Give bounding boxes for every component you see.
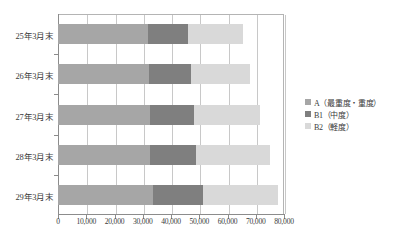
legend-label: B1（中度） xyxy=(314,109,354,120)
x-tick-label: 60,000 xyxy=(218,217,238,226)
bar-segment-a xyxy=(58,24,148,44)
legend-swatch-icon xyxy=(305,111,311,117)
y-tick xyxy=(54,135,58,136)
bar-chart: 25年3月末26年3月末27年3月末28年3月末29年3月末 010,00020… xyxy=(0,0,401,244)
y-tick xyxy=(54,94,58,95)
bar-segment-b2 xyxy=(191,64,250,84)
y-tick xyxy=(54,175,58,176)
bar-segment-b2 xyxy=(196,145,269,165)
chart-legend: A（最重度・重度）B1（中度）B2（軽度） xyxy=(305,96,397,132)
x-tick-label: 0 xyxy=(56,217,60,226)
y-axis-category-label: 28年3月末 xyxy=(0,150,54,162)
bar-segment-b2 xyxy=(188,24,243,44)
y-axis-category-label: 26年3月末 xyxy=(0,69,54,81)
legend-item[interactable]: B2（軽度） xyxy=(305,120,397,132)
legend-swatch-icon xyxy=(305,99,311,105)
x-tick-label: 20,000 xyxy=(105,217,125,226)
bar-segment-b1 xyxy=(150,105,194,125)
bar-segment-b2 xyxy=(203,185,278,205)
y-axis-category-label: 25年3月末 xyxy=(0,29,54,41)
bar-segment-b1 xyxy=(148,24,188,44)
gridline xyxy=(285,15,286,214)
y-axis-category-label: 27年3月末 xyxy=(0,110,54,122)
bar-segment-b1 xyxy=(149,64,191,84)
legend-label: A（最重度・重度） xyxy=(314,97,381,108)
legend-item[interactable]: B1（中度） xyxy=(305,108,397,120)
legend-swatch-icon xyxy=(305,123,311,129)
bar-segment-a xyxy=(58,105,150,125)
legend-label: B2（軽度） xyxy=(314,121,354,132)
x-tick-label: 80,000 xyxy=(274,217,294,226)
y-axis-category-label: 29年3月末 xyxy=(0,190,54,202)
bar-segment-b2 xyxy=(194,105,260,125)
x-tick-label: 40,000 xyxy=(161,217,181,226)
legend-item[interactable]: A（最重度・重度） xyxy=(305,96,397,108)
bar-segment-a xyxy=(58,145,150,165)
bar-segment-a xyxy=(58,185,153,205)
x-tick-label: 30,000 xyxy=(133,217,153,226)
bar-segment-b1 xyxy=(153,185,204,205)
x-tick-label: 50,000 xyxy=(189,217,209,226)
y-tick xyxy=(54,54,58,55)
bar-segment-a xyxy=(58,64,149,84)
x-tick-label: 10,000 xyxy=(76,217,96,226)
x-tick-label: 70,000 xyxy=(246,217,266,226)
bar-segment-b1 xyxy=(150,145,196,165)
